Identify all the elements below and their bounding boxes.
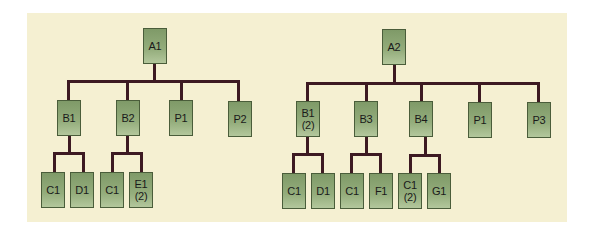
- connector: [306, 82, 540, 85]
- node-label: C1: [46, 184, 59, 196]
- node-label: C1: [105, 184, 118, 196]
- connector: [67, 80, 240, 83]
- node-label: B1: [302, 107, 315, 119]
- node-b3: B3: [354, 101, 378, 137]
- node-label: P2: [234, 113, 247, 125]
- node-b1: B1 (2): [296, 101, 320, 137]
- node-quantity: (2): [302, 119, 315, 131]
- node-label: P1: [474, 114, 487, 126]
- node-label: B3: [360, 113, 373, 125]
- node-label: B2: [122, 112, 135, 124]
- node-d1: D1: [70, 172, 94, 208]
- node-p3: P3: [527, 102, 551, 138]
- connector: [53, 152, 56, 172]
- connector: [67, 80, 70, 100]
- connector: [237, 80, 240, 101]
- node-a2: A2: [382, 29, 406, 65]
- node-b2: B2: [116, 100, 140, 136]
- connector: [111, 152, 114, 172]
- node-label: A2: [388, 41, 401, 53]
- connector: [420, 82, 423, 101]
- connector: [537, 82, 540, 102]
- connector: [350, 153, 353, 173]
- connector: [409, 154, 441, 157]
- node-b1: B1: [57, 100, 81, 136]
- connector: [365, 82, 368, 101]
- node-label: D1: [75, 184, 88, 196]
- node-g1: G1: [427, 173, 451, 209]
- node-quantity: (2): [135, 190, 148, 202]
- node-p1: P1: [468, 102, 492, 138]
- connector: [478, 82, 481, 102]
- node-e1: E1 (2): [129, 172, 153, 208]
- connector: [292, 153, 295, 173]
- connector: [140, 152, 143, 172]
- connector: [180, 80, 183, 100]
- connector: [379, 153, 382, 173]
- connector: [438, 154, 441, 173]
- node-c1: C1: [340, 173, 364, 209]
- node-f1: F1: [369, 173, 393, 209]
- node-label: D1: [316, 185, 329, 197]
- connector: [53, 152, 85, 155]
- connector: [350, 153, 382, 156]
- node-c1: C1: [41, 172, 65, 208]
- node-label: A1: [149, 40, 162, 52]
- node-label: G1: [432, 185, 446, 197]
- connector: [306, 82, 309, 101]
- node-p2: P2: [228, 101, 252, 137]
- connector: [126, 80, 129, 100]
- connector: [111, 152, 143, 155]
- node-c1: C1: [282, 173, 306, 209]
- connector: [409, 154, 412, 173]
- node-a1: A1: [143, 28, 167, 64]
- node-label: C1: [403, 179, 416, 191]
- node-c1: C1 (2): [398, 173, 422, 209]
- node-label: C1: [345, 185, 358, 197]
- node-label: P3: [533, 114, 546, 126]
- node-label: P1: [175, 112, 188, 124]
- node-label: F1: [375, 185, 387, 197]
- node-b4: B4: [409, 101, 433, 137]
- connector: [292, 153, 324, 156]
- node-c1: C1: [100, 172, 124, 208]
- connector: [82, 152, 85, 172]
- connector: [321, 153, 324, 173]
- node-label: B4: [415, 113, 428, 125]
- node-d1: D1: [311, 173, 335, 209]
- node-label: C1: [287, 185, 300, 197]
- node-label: B1: [63, 112, 76, 124]
- node-quantity: (2): [404, 191, 417, 203]
- node-p1: P1: [169, 100, 193, 136]
- node-label: E1: [135, 178, 148, 190]
